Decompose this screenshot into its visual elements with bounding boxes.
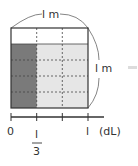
tick-label-zero: 0: [7, 126, 14, 137]
area-model-diagram: [0, 0, 138, 166]
side-dimension-label: l m: [95, 63, 112, 74]
side-bar: [128, 66, 137, 69]
tick-label-one: l: [86, 126, 89, 137]
fraction-denominator: 3: [33, 146, 40, 157]
fraction-numerator: l: [35, 129, 38, 140]
top-dimension-label: l m: [42, 9, 59, 20]
unit-label: (dL): [99, 126, 121, 137]
